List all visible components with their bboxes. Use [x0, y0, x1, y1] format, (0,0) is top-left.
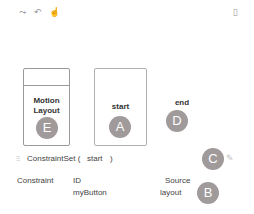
create-transition-icon[interactable]: ⤳	[17, 7, 27, 17]
column-header-constraint: Constraint	[17, 176, 53, 185]
motion-layout-box[interactable]: Motion Layout E	[23, 68, 70, 146]
create-gesture-icon[interactable]: ☝	[49, 7, 59, 17]
row-source: layout	[160, 188, 181, 197]
constraint-set-start-box[interactable]: start A	[94, 68, 147, 146]
motion-layout-header-divider	[24, 85, 69, 86]
selection-title-suffix: )	[110, 154, 113, 163]
motion-layout-label-line2: Layout	[24, 106, 69, 116]
badge-d: D	[166, 110, 188, 132]
edit-icon[interactable]: ✎	[226, 153, 234, 163]
column-header-source: Source	[165, 176, 190, 185]
end-label: end	[162, 98, 202, 108]
start-label: start	[95, 102, 146, 112]
badge-b: B	[197, 182, 219, 204]
motion-layout-label-line1: Motion	[24, 96, 69, 106]
constraint-set-icon: ⠿	[16, 155, 20, 162]
row-id: myButton	[73, 188, 107, 197]
create-click-handler-icon[interactable]: ↶	[33, 7, 43, 17]
badge-e: E	[36, 117, 58, 139]
column-header-id: ID	[73, 176, 81, 185]
selected-item-icon[interactable]: ▯	[230, 7, 240, 17]
selection-title-prefix: ConstraintSet (	[27, 154, 80, 163]
selection-title-name: start	[87, 154, 103, 163]
badge-c: C	[202, 148, 224, 170]
badge-a: A	[109, 116, 131, 138]
